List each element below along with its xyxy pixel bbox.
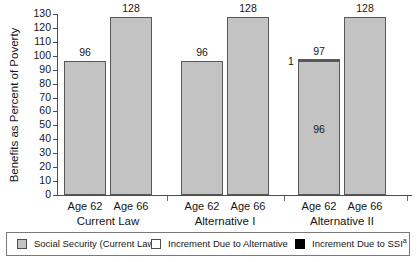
y-tick-label: 70	[39, 91, 51, 104]
bar-segment	[227, 17, 269, 195]
bar-total-label: 128	[356, 2, 374, 14]
bar: 128	[110, 17, 152, 195]
y-tick-label: 30	[39, 146, 51, 159]
bar: 96	[181, 61, 223, 195]
bar: 128	[227, 17, 269, 195]
bar-total-label: 128	[239, 2, 257, 14]
bar-segment	[298, 59, 340, 61]
y-tick-label: 60	[39, 104, 51, 117]
y-tick-mark	[53, 139, 57, 140]
bar-segment	[110, 17, 152, 195]
y-tick-label: 20	[39, 160, 51, 173]
y-tick-mark	[53, 28, 57, 29]
legend-item: Social Security (Current Law)	[17, 237, 158, 251]
y-tick-mark	[53, 84, 57, 85]
bar-total-label: 97	[313, 45, 325, 57]
bar: 128	[344, 17, 386, 195]
category-label: Age 66	[91, 200, 171, 213]
bar-segment	[344, 17, 386, 195]
bar-total-label: 96	[79, 46, 91, 58]
y-tick-mark	[53, 181, 57, 182]
y-tick-label: 90	[39, 63, 51, 76]
legend-item: Increment Due to SSIa	[295, 237, 407, 251]
bar-segment	[181, 61, 223, 195]
y-tick-mark	[53, 167, 57, 168]
legend-footnote-marker: a	[403, 237, 407, 244]
y-tick-mark	[53, 98, 57, 99]
y-tick-mark	[53, 56, 57, 57]
group-label: Alternative II	[272, 214, 412, 228]
y-tick-mark	[53, 111, 57, 112]
legend-label: Increment Due to Alternative	[168, 238, 288, 250]
y-tick-label: 10	[39, 174, 51, 187]
y-tick-label: 100	[33, 49, 51, 62]
segment-value-label: 96	[313, 123, 325, 135]
group-separator-tick	[407, 196, 408, 201]
legend-swatch-white	[151, 239, 161, 249]
plot-area: 1301201101009080706050403020100 96128961…	[57, 14, 412, 196]
y-tick-label: 80	[39, 77, 51, 90]
bar-segment: 96	[298, 61, 340, 195]
bar: 96	[64, 61, 106, 195]
bar: 96197	[298, 60, 340, 195]
legend-label: Increment Due to SSIa	[312, 238, 407, 250]
bar-total-label: 96	[196, 46, 208, 58]
legend-swatch-gray	[17, 239, 27, 249]
y-tick-label: 130	[33, 7, 51, 20]
y-tick-label: 50	[39, 118, 51, 131]
y-tick-mark	[53, 195, 57, 196]
y-tick-label: 40	[39, 132, 51, 145]
y-tick-mark	[53, 70, 57, 71]
y-tick-mark	[53, 42, 57, 43]
y-tick-label: 110	[34, 35, 51, 48]
y-tick-mark	[53, 14, 57, 15]
segment-value-label: 1	[288, 55, 294, 67]
y-tick-mark	[53, 153, 57, 154]
y-tick-label: 120	[33, 21, 51, 34]
x-axis-line	[57, 195, 412, 196]
y-axis-line	[57, 14, 58, 196]
y-tick-mark	[53, 125, 57, 126]
legend-swatch-black	[295, 239, 305, 249]
bar-total-label: 128	[122, 2, 140, 14]
category-label: Age 66	[208, 200, 288, 213]
legend-label: Social Security (Current Law)	[34, 238, 158, 250]
chart-legend: Social Security (Current Law)Increment D…	[6, 232, 410, 256]
bar-segment	[64, 61, 106, 195]
chart-figure: Benefits as Percent of Poverty 130120110…	[0, 0, 419, 262]
legend-item: Increment Due to Alternative	[151, 237, 288, 251]
y-axis-title: Benefits as Percent of Poverty	[7, 14, 21, 196]
category-label: Age 66	[325, 200, 405, 213]
